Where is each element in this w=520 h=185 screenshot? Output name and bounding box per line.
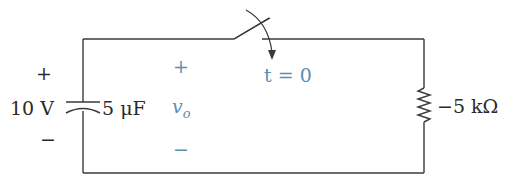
source-plus-sign: + — [36, 62, 52, 84]
resistor-value-label: −5 kΩ — [437, 95, 498, 117]
circuit-diagram: + 10 V − 5 μF + vo − t = 0 −5 kΩ — [0, 0, 520, 185]
switch-arrow-icon — [246, 10, 276, 60]
resistor-symbol — [418, 88, 430, 122]
switch-blade — [234, 18, 269, 39]
output-voltage-symbol: vo — [172, 95, 191, 121]
source-voltage-label: 10 V — [10, 97, 54, 119]
switch-time-label: t = 0 — [264, 64, 312, 86]
output-plus-sign: + — [173, 55, 189, 77]
capacitor-value-label: 5 μF — [102, 97, 146, 119]
output-minus-sign: − — [173, 138, 189, 160]
source-minus-sign: − — [40, 128, 56, 150]
